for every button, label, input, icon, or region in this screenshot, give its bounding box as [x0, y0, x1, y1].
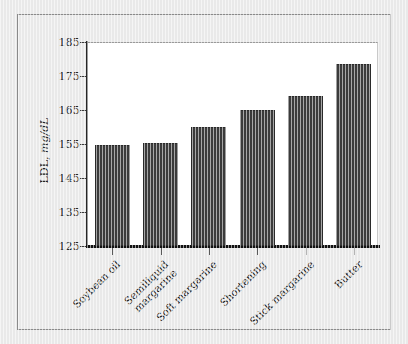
y-axis-tick-label: 175: [50, 70, 80, 83]
y-axis-tick-label: 135: [50, 206, 80, 219]
bar: [95, 145, 130, 246]
y-axis-tick-label: 155: [50, 138, 80, 151]
x-axis-tick-mark: [112, 248, 113, 255]
figure-canvas: 125135145155165175185 LDL, mg/dL Soybean…: [0, 0, 408, 344]
bar: [191, 127, 226, 246]
plot-area: [88, 42, 378, 246]
x-axis-tick-mark: [209, 248, 210, 255]
y-axis-tick-mark: [80, 178, 86, 179]
y-axis-line: [86, 41, 88, 247]
y-axis-tick-label: 165: [50, 104, 80, 117]
y-axis-label: LDL, mg/dL: [38, 91, 51, 211]
bar: [336, 64, 371, 246]
x-axis-tick-mark: [306, 248, 307, 255]
y-axis-tick-mark: [80, 42, 86, 43]
x-axis-tick-mark: [161, 248, 162, 255]
y-axis-label-main: LDL,: [38, 157, 51, 184]
y-axis-tick-mark: [80, 212, 86, 213]
y-axis-tick-mark: [80, 76, 86, 77]
y-axis-tick-mark: [80, 110, 86, 111]
y-axis-tick-label: 185: [50, 36, 80, 49]
bar: [288, 96, 323, 246]
bar: [240, 110, 275, 246]
bar: [143, 143, 178, 246]
y-axis-tick-label: 125: [50, 240, 80, 253]
y-axis-tick-label: 145: [50, 172, 80, 185]
y-axis-label-unit: mg/dL: [38, 118, 51, 154]
y-axis-tick-mark: [80, 246, 86, 247]
x-axis-tick-mark: [257, 248, 258, 255]
y-axis-tick-mark: [80, 144, 86, 145]
x-axis-tick-mark: [354, 248, 355, 255]
